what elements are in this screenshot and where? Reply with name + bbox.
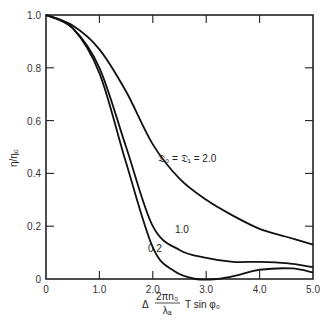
x-tick-label: 1.0	[92, 284, 106, 295]
x-tick-label: 5.0	[306, 284, 320, 295]
annotation-2.0: 𝔇₀ = 𝔇₁ = 2.0	[158, 153, 217, 164]
x-tick-label: 3.0	[199, 284, 213, 295]
x-label-delta: Δ	[142, 299, 149, 310]
x-tick-label: 4.0	[253, 284, 267, 295]
y-axis-label: η/η₀	[8, 149, 19, 167]
x-label-numerator: 2πn₀	[156, 291, 178, 302]
y-tick-label: 0.6	[27, 116, 41, 127]
chart: 01.02.03.04.05.000.20.40.60.81.0𝔇₀ = 𝔇₁ …	[0, 0, 329, 324]
annotation-0.2: 0.2	[148, 243, 162, 254]
x-label-rest: T sin φ₀	[185, 299, 220, 310]
x-label-denominator: λₐ	[163, 305, 172, 316]
y-tick-label: 0.2	[27, 221, 41, 232]
x-tick-label: 0	[43, 284, 49, 295]
y-tick-label: 0.4	[27, 168, 41, 179]
y-tick-label: 0.8	[27, 63, 41, 74]
y-tick-label: 1.0	[27, 10, 41, 21]
plot-frame	[46, 15, 313, 279]
annotation-1.0: 1.0	[175, 224, 189, 235]
curve-2.0	[46, 15, 313, 245]
y-tick-label: 0	[35, 274, 41, 285]
curve-0.2	[46, 15, 313, 280]
